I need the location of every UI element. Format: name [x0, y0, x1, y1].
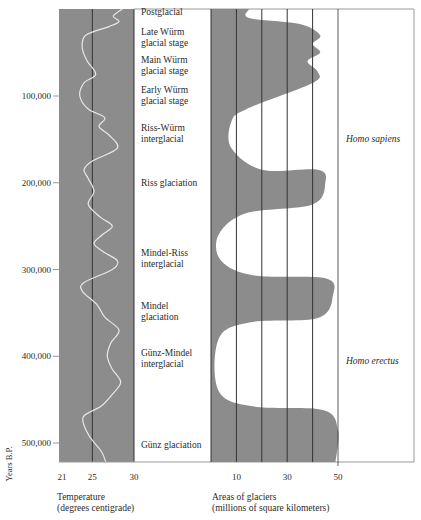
stage-label: Riss-Würm: [141, 123, 185, 133]
stage-label: glacial stage: [141, 66, 188, 76]
glacier-x-tick-label: 30: [283, 472, 293, 482]
stage-label: interglacial: [141, 134, 184, 144]
y-tick-label: 200,000: [22, 178, 52, 188]
temp-x-label-units: (degrees centigrade): [57, 503, 134, 514]
species-label: Homo sapiens: [345, 134, 400, 144]
y-axis: 100,000200,000300,000400,000500,000Years…: [4, 91, 59, 481]
glaciation-chart: PostglacialLate Würmglacial stageMain Wü…: [0, 0, 421, 520]
glacier-x-tick-label: 50: [334, 472, 344, 482]
temp-x-tick-label: 21: [58, 472, 67, 482]
y-tick-label: 400,000: [22, 351, 52, 361]
temperature-background: [59, 9, 134, 462]
y-tick-label: 500,000: [22, 438, 52, 448]
stage-label: Postglacial: [141, 7, 183, 17]
species-labels: Homo sapiensHomo erectus: [345, 134, 400, 365]
temp-x-tick-label: 30: [130, 472, 140, 482]
stage-label: Early Würm: [141, 85, 189, 95]
glacier-x-label-units: (millions of square kilometers): [212, 503, 329, 514]
x-axes: 212530Temperature(degrees centigrade)103…: [57, 472, 343, 514]
temp-x-label: Temperature: [57, 492, 105, 502]
y-tick-label: 300,000: [22, 265, 52, 275]
temp-x-tick-label: 25: [88, 472, 98, 482]
stage-label: Main Würm: [141, 55, 188, 65]
stage-label: Riss glaciation: [141, 178, 197, 188]
y-tick-label: 100,000: [22, 91, 52, 101]
stage-label: Mindel-Riss: [141, 248, 188, 258]
stage-label: glaciation: [141, 312, 179, 322]
glacier-x-label: Areas of glaciers: [212, 492, 277, 502]
stage-label: glacial stage: [141, 38, 188, 48]
glacier-area-panel: [211, 9, 339, 466]
species-label: Homo erectus: [345, 356, 399, 366]
y-axis-label: Years B.P.: [4, 447, 14, 482]
stage-label: Late Würm: [141, 27, 185, 37]
glacial-stage-labels: PostglacialLate Würmglacial stageMain Wü…: [141, 7, 202, 450]
glacier-x-tick-label: 10: [232, 472, 242, 482]
stage-label: interglacial: [141, 259, 184, 269]
stage-label: Mindel: [141, 301, 169, 311]
stage-label: glacial stage: [141, 96, 188, 106]
stage-label: Günz glaciation: [141, 440, 202, 450]
stage-label: interglacial: [141, 359, 184, 369]
stage-label: Günz-Mindel: [141, 348, 193, 358]
glacier-area-fill: [211, 9, 339, 462]
